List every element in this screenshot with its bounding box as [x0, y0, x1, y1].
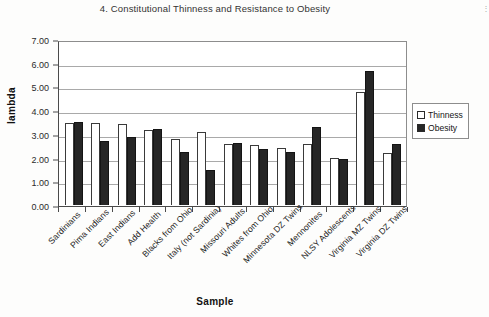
legend-item: Obesity: [417, 121, 463, 134]
open-square-swatch: [417, 111, 425, 119]
chart-legend: ThinnessObesity: [412, 103, 469, 139]
x-axis-labels: SardiniansPima IndiansEast IndiansAdd He…: [0, 0, 489, 317]
legend-label: Thinness: [428, 110, 463, 120]
legend-item: Thinness: [417, 108, 463, 121]
figure-panel: 4. Constitutional Thinness and Resistanc…: [0, 0, 489, 317]
x-axis-title: Sample: [0, 296, 430, 307]
x-tick-label: Virginia DZ Twins: [354, 204, 409, 259]
filled-square-swatch: [417, 124, 425, 132]
legend-label: Obesity: [428, 123, 457, 133]
